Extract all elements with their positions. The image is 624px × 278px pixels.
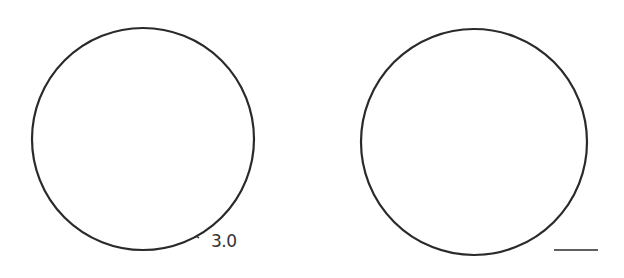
left-circle: [32, 28, 254, 250]
diagram-svg: [0, 0, 624, 278]
right-circle: [361, 29, 587, 255]
left-circle-label: 3.0: [211, 233, 237, 250]
diagram-canvas: 3.0: [0, 0, 624, 278]
